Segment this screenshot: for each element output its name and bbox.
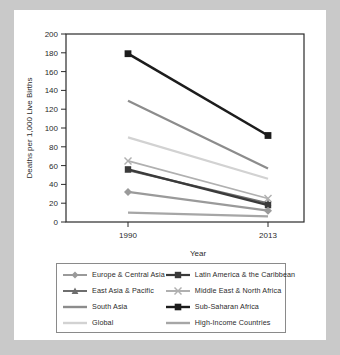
legend-item-europe-central-asia[interactable]: Europe & Central Asia (62, 270, 165, 280)
y-tick-40: 40 (49, 180, 58, 189)
y-tick-180: 180 (45, 49, 59, 58)
x-axis-labels: 1990 2013 (119, 231, 277, 240)
legend-marker-square-icon (165, 270, 191, 280)
legend-marker-line-gray-icon (165, 318, 191, 328)
legend-item-east-asia-pacific[interactable]: East Asia & Pacific (62, 286, 165, 296)
x-tick-2013: 2013 (259, 231, 277, 240)
legend-marker-triangle-icon (62, 286, 88, 296)
y-tick-200: 200 (45, 30, 59, 39)
y-tick-80: 80 (49, 143, 58, 152)
legend-item-middle-east-north-africa[interactable]: Middle East & North Africa (165, 286, 295, 296)
legend-marker-line-light-icon (62, 318, 88, 328)
legend-marker-line-icon (62, 302, 88, 312)
legend-marker-cross-icon (165, 286, 191, 296)
legend-item-latin-america-caribbean[interactable]: Latin America & the Caribbean (165, 270, 295, 280)
legend-item-sub-saharan-africa[interactable]: Sub-Saharan Africa (165, 302, 295, 312)
legend-label: Global (92, 319, 113, 326)
y-axis-ticks (61, 34, 66, 222)
legend-label: Europe & Central Asia (92, 271, 165, 278)
y-axis-labels: 200 180 160 140 120 100 80 60 40 20 0 (45, 30, 59, 227)
legend-label: Sub-Saharan Africa (195, 303, 259, 310)
legend-label: East Asia & Pacific (92, 287, 154, 294)
legend-item-south-asia[interactable]: South Asia (62, 302, 165, 312)
legend-label: Latin America & the Caribbean (195, 271, 295, 278)
x-axis-title: Year (190, 249, 207, 258)
y-tick-0: 0 (54, 218, 59, 227)
y-tick-60: 60 (49, 162, 58, 171)
x-tick-1990: 1990 (119, 231, 137, 240)
chart-legend: Europe & Central Asia Latin America & th… (56, 263, 286, 333)
line-chart: 200 180 160 140 120 100 80 60 40 20 0 De… (14, 10, 326, 265)
y-tick-160: 160 (45, 68, 59, 77)
y-axis-title: Deaths per 1,000 Live Births (25, 78, 34, 179)
y-tick-100: 100 (45, 124, 59, 133)
legend-marker-square-dark-icon (165, 302, 191, 312)
legend-label: South Asia (92, 303, 127, 310)
legend-item-high-income-countries[interactable]: High-Income Countries (165, 318, 295, 328)
chart-page: 200 180 160 140 120 100 80 60 40 20 0 De… (14, 10, 326, 340)
y-tick-20: 20 (49, 199, 58, 208)
legend-marker-diamond-icon (62, 270, 88, 280)
legend-label: Middle East & North Africa (195, 287, 282, 294)
legend-label: High-Income Countries (195, 319, 271, 326)
y-tick-120: 120 (45, 105, 59, 114)
legend-item-global[interactable]: Global (62, 318, 165, 328)
y-tick-140: 140 (45, 86, 59, 95)
x-axis-ticks (128, 222, 268, 227)
chart-svg: 200 180 160 140 120 100 80 60 40 20 0 De… (14, 10, 326, 265)
